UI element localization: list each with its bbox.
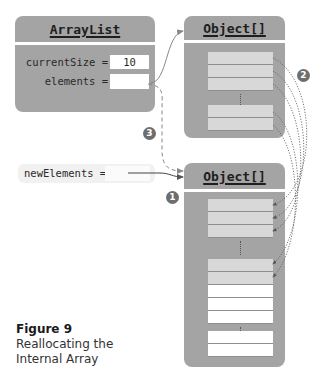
figure-caption: Figure 9 Reallocating the Internal Array bbox=[16, 322, 113, 367]
step-badge-3: 3 bbox=[143, 127, 156, 140]
step-badge-2: 2 bbox=[297, 69, 310, 82]
caption-line-1: Reallocating the bbox=[16, 337, 113, 352]
caption-title: Figure 9 bbox=[16, 322, 113, 337]
elements-to-old-array-arrow bbox=[150, 31, 183, 83]
new-elements-to-new-array-arrow bbox=[128, 173, 183, 177]
caption-line-2: Internal Array bbox=[16, 352, 113, 367]
step-badge-1: 1 bbox=[166, 191, 179, 204]
copy-arcs bbox=[273, 58, 307, 277]
